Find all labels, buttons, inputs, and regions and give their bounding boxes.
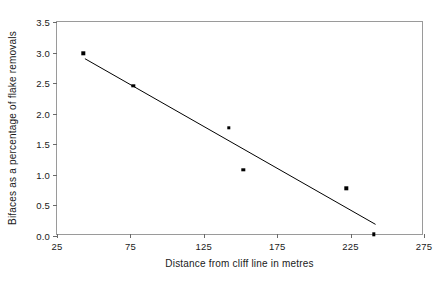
plot-frame: 0.00.51.01.52.02.53.03.52575125175225275 — [56, 21, 423, 235]
data-point — [242, 168, 245, 171]
x-axis-tick-label: 225 — [342, 241, 358, 252]
y-axis-tick-label: 2.0 — [36, 108, 50, 119]
x-axis-tick-label: 125 — [196, 241, 212, 252]
x-axis-tick-label: 175 — [269, 241, 285, 252]
y-axis-tick-label: 2.5 — [36, 78, 50, 89]
data-point — [227, 126, 230, 129]
y-axis-tick-label: 1.0 — [36, 169, 50, 180]
y-axis-tick-label: 0.0 — [36, 231, 50, 242]
data-point — [82, 51, 85, 54]
x-axis-tick-label: 25 — [52, 241, 63, 252]
y-axis-tick-label: 0.5 — [36, 200, 50, 211]
data-point — [132, 84, 135, 87]
plot-area: 0.00.51.01.52.02.53.03.52575125175225275 — [57, 22, 422, 234]
data-point — [372, 232, 375, 235]
y-axis-tick-label: 3.5 — [36, 17, 50, 28]
y-axis-tick-label: 3.0 — [36, 47, 50, 58]
x-axis-tick — [424, 234, 425, 238]
x-axis-tick-label: 275 — [416, 241, 432, 252]
y-axis-title: Bifaces as a percentage of flake removal… — [7, 21, 21, 235]
trend-line — [57, 22, 424, 236]
y-axis-tick-label: 1.5 — [36, 139, 50, 150]
x-axis-tick-label: 75 — [125, 241, 136, 252]
scatter-chart-figure: 0.00.51.01.52.02.53.03.52575125175225275… — [0, 0, 444, 283]
x-axis-title: Distance from cliff line in metres — [56, 258, 423, 269]
data-point — [344, 187, 347, 190]
